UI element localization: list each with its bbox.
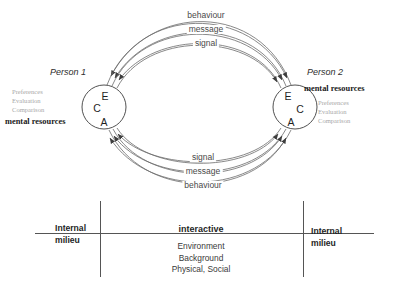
person-1-letter-e: E — [101, 90, 108, 102]
arc-label-bottom-message: message — [184, 167, 223, 176]
arc-label-top-message: message — [187, 25, 226, 34]
band-left-internal-milieu: Internal milieu — [55, 223, 86, 246]
band-right-internal-milieu: Internal milieu — [311, 226, 342, 249]
person-2-letter-c: C — [296, 103, 304, 115]
person-1-attribute-preferences: Preferences — [12, 87, 44, 96]
band-environment-item-background: Background — [172, 253, 231, 265]
band-divider-right — [303, 201, 304, 277]
person-2-attribute-evaluation: Evaluation — [318, 107, 350, 116]
band-interactive-heading: interactive — [178, 224, 223, 234]
person-1-attribute-comparison: Comparison — [12, 105, 44, 114]
person-1-letter-a: A — [100, 116, 107, 128]
diagram-canvas: behaviour message signal signal message … — [0, 0, 393, 284]
arc-label-top-behaviour: behaviour — [185, 11, 226, 20]
arc-label-top-signal: signal — [193, 39, 219, 48]
band-divider-left — [100, 201, 101, 277]
person-2-letter-a: A — [287, 116, 294, 128]
band-left-internal-line1: Internal — [55, 223, 86, 235]
band-right-internal-line2: milieu — [311, 238, 342, 250]
person-2-title: Person 2 — [307, 68, 343, 77]
person-1-attribute-evaluation: Evaluation — [12, 96, 44, 105]
person-2-attribute-preferences: Preferences — [318, 98, 350, 107]
band-environment-list: Environment Background Physical, Social — [172, 241, 231, 276]
person-1-letter-c: C — [93, 102, 101, 114]
person-1-title: Person 1 — [50, 68, 86, 77]
person-1-mental-resources: mental resources — [5, 118, 65, 126]
band-right-internal-line1: Internal — [311, 226, 342, 238]
person-2-mental-resources: mental resources — [304, 85, 364, 93]
person-2-attribute-comparison: Comparison — [318, 116, 350, 125]
band-left-internal-line2: milieu — [55, 235, 86, 247]
band-environment-item-environment: Environment — [172, 241, 231, 253]
person-2-attributes: Preferences Evaluation Comparison — [318, 98, 350, 126]
arc-label-bottom-behaviour: behaviour — [182, 181, 223, 190]
person-1-attributes: Preferences Evaluation Comparison — [12, 87, 44, 115]
arc-label-bottom-signal: signal — [190, 153, 216, 162]
band-environment-item-physical-social: Physical, Social — [172, 264, 231, 276]
person-2-letter-e: E — [284, 90, 291, 102]
